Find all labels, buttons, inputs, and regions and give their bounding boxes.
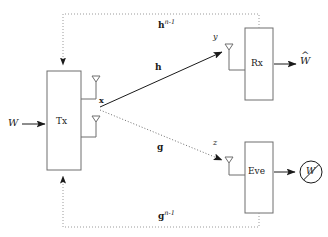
main-channel-arrow-line	[100, 52, 222, 107]
wiretap-channel-diagram: Tx Rx Eve W x y z h g hn-1 gn-1 ^W W	[0, 0, 328, 237]
message-input-label: W	[8, 118, 18, 128]
wiretap-feedback-exponent: n-1	[164, 209, 175, 217]
tx-signal-label: x	[99, 96, 104, 104]
eve-signal-label: z	[213, 139, 217, 147]
main-feedback-exponent: n-1	[165, 18, 176, 26]
eve-antenna-stem	[229, 163, 245, 175]
eve-cannot-decode-symbol: W	[306, 167, 315, 176]
receiver-block-label: Rx	[251, 59, 263, 68]
tx-antenna-upper-stem	[81, 82, 96, 99]
tx-antenna-lower-stem	[81, 122, 96, 137]
estimate-output-hat-accent: ^	[301, 50, 309, 60]
rx-antenna-glyph	[225, 44, 233, 50]
eavesdropper-block-rect	[245, 142, 273, 213]
transmitter-block-label: Tx	[56, 117, 67, 126]
wiretap-channel-label: g	[157, 143, 163, 152]
rx-signal-label: y	[213, 33, 218, 41]
estimate-output-symbol-wrap: ^W	[300, 56, 310, 66]
tx-antenna-lower-glyph	[92, 116, 100, 122]
eve-antenna-glyph	[225, 157, 233, 163]
wiretap-channel-arrow-line	[100, 110, 222, 160]
diagram-vector-layer	[0, 0, 328, 237]
tx-antenna-upper-glyph	[92, 76, 100, 82]
main-channel-label: h	[155, 63, 162, 72]
rx-antenna-stem	[229, 50, 245, 70]
wiretap-channel-feedback-label: gn-1	[158, 210, 175, 221]
eavesdropper-block-label: Eve	[248, 167, 265, 176]
main-channel-feedback-label: hn-1	[158, 19, 175, 30]
estimate-output-label: ^W	[300, 56, 310, 66]
